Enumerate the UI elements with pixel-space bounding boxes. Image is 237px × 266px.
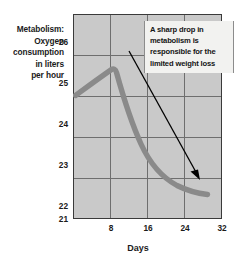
- y-tick-label-21: 21: [52, 215, 68, 224]
- y-tick-label-24: 24: [52, 120, 68, 129]
- x-tick-label-16: 16: [138, 224, 158, 233]
- y-tick-label-25: 25: [52, 79, 68, 88]
- annotation-textbox: A sharp drop in metabolism is responsibl…: [144, 21, 234, 73]
- annotation-line-3: responsible for the: [150, 46, 229, 57]
- annotation-line-2: metabolism is: [150, 35, 229, 46]
- y-axis-title: Metabolism: Oxygen consumption in liters…: [0, 24, 64, 82]
- y-tick-label-22: 22: [52, 202, 68, 211]
- annotation-line-4: limited weight loss: [150, 58, 229, 69]
- y-axis-title-line-4: in liters: [0, 59, 64, 71]
- y-axis-title-line-3: consumption: [0, 47, 64, 59]
- x-tick-label-24: 24: [175, 224, 195, 233]
- y-tick-label-26: 26: [52, 38, 68, 47]
- metabolism-chart-figure: Metabolism: Oxygen consumption in liters…: [0, 0, 237, 266]
- x-tick-label-8: 8: [101, 224, 121, 233]
- annotation-line-1: A sharp drop in: [150, 24, 229, 35]
- y-axis-title-line-1: Metabolism:: [0, 24, 64, 36]
- x-tick-label-32: 32: [212, 224, 232, 233]
- y-tick-label-23: 23: [52, 161, 68, 170]
- x-axis-title: Days: [108, 243, 168, 253]
